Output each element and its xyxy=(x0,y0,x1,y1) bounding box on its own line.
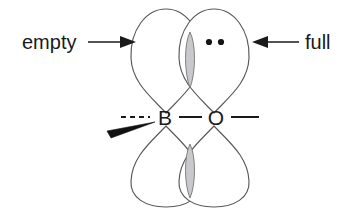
wedge-bond xyxy=(107,122,155,138)
annotation-label-empty: empty xyxy=(22,31,76,53)
full-arrow-head-icon xyxy=(252,36,268,48)
annotation-label-full: full xyxy=(305,31,331,53)
atom-label-oxygen: O xyxy=(208,106,224,129)
atom-label-boron: B xyxy=(158,106,172,129)
lone-pair-dot xyxy=(218,39,224,45)
lone-pair-dot xyxy=(206,39,212,45)
orbital-diagram: B O empty full xyxy=(0,0,350,217)
orbital-diagram-canvas: B O empty full xyxy=(0,0,350,217)
